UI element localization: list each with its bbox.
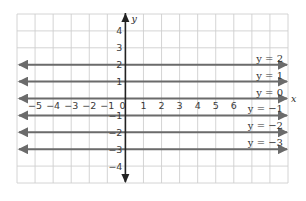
y-axis-down-arrow-icon [121,174,129,183]
line-equation-label: y = 1 [255,70,283,81]
x-tick-label: 2 [159,100,165,111]
x-tick-label: −4 [46,100,60,111]
y-tick-label: −1 [108,110,122,121]
line-equation-label: y = −2 [247,120,283,131]
y-tick-label: 1 [116,76,122,87]
x-tick-label: −2 [82,100,96,111]
y-tick-label: 4 [116,25,122,36]
x-axis-label: x [291,93,297,104]
horizontal-lines-graph: yx −5−4−3−2−101234564321−1−2−3−4 y = 2y … [0,0,306,201]
y-tick-label: −4 [108,161,122,172]
line-equation-label: y = 2 [255,53,283,64]
x-tick-label: −1 [100,100,114,111]
x-tick-label: 5 [213,100,219,111]
line-equation-label: y = 0 [255,87,283,98]
x-tick-label: −5 [28,100,42,111]
x-tick-label: 1 [140,100,146,111]
y-tick-label: 2 [116,59,122,70]
x-tick-label: 4 [195,100,201,111]
y-tick-label: 3 [116,42,122,53]
x-tick-label: 3 [177,100,183,111]
x-tick-label: 6 [231,100,237,111]
line-equation-label: y = −1 [247,103,283,114]
y-axis-label: y [130,13,137,24]
x-tick-label: −3 [64,100,78,111]
x-tick-label: 0 [119,100,125,111]
y-tick-label: −2 [108,127,122,138]
y-tick-label: −3 [108,144,122,155]
line-equation-label: y = −3 [247,137,283,148]
